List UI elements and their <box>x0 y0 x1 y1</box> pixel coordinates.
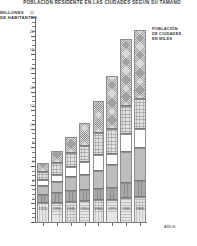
x-axis-tick-label: 1950 <box>80 206 89 211</box>
x-axis-tick <box>71 223 72 226</box>
bar-segment[interactable] <box>134 181 146 197</box>
y-axis-tick <box>32 115 35 116</box>
y-axis-tick <box>32 217 35 218</box>
x-axis-tick-label: 1930 <box>52 206 61 211</box>
y-axis-tick <box>31 54 35 55</box>
y-axis-tick-label: 4 <box>32 179 34 183</box>
bar-segment[interactable] <box>93 133 105 155</box>
bar-segment[interactable] <box>65 153 77 167</box>
bar-segment[interactable] <box>65 202 77 223</box>
bar-segment[interactable] <box>93 101 105 133</box>
bar-segment[interactable] <box>79 123 91 145</box>
x-axis-tick <box>140 223 141 226</box>
x-axis-tick-label: 1991 <box>136 206 145 211</box>
bar-segment[interactable] <box>106 129 118 154</box>
bar-segment[interactable] <box>37 163 49 171</box>
bar-segment[interactable] <box>51 182 63 193</box>
bar-segment[interactable] <box>106 76 118 129</box>
bar-segment[interactable] <box>120 134 132 152</box>
y-axis-tick <box>32 26 35 27</box>
bar-segment[interactable] <box>106 188 118 200</box>
y-axis-tick <box>32 64 35 65</box>
bar-segment[interactable] <box>93 200 105 223</box>
bar-segment[interactable] <box>37 172 49 180</box>
bar-group[interactable] <box>65 18 77 223</box>
bar-group[interactable] <box>93 18 105 223</box>
y-axis-tick <box>31 203 35 204</box>
y-axis-tick-label: 2 <box>32 198 34 202</box>
y-axis-tick <box>32 120 35 121</box>
bar-segment[interactable] <box>65 177 77 191</box>
y-axis-tick <box>32 208 35 209</box>
bar-segment[interactable] <box>106 154 118 165</box>
bar-segment[interactable] <box>65 167 77 177</box>
y-axis-tick <box>31 73 35 74</box>
x-axis-tick-label: 1970 <box>108 206 117 211</box>
bar-group[interactable] <box>134 18 146 223</box>
x-axis-tick <box>126 223 127 226</box>
y-axis-tick <box>32 133 35 134</box>
y-axis-tick <box>31 36 35 37</box>
y-axis-tick <box>32 59 35 60</box>
bar-segment[interactable] <box>51 151 63 163</box>
bar-segment[interactable] <box>134 129 146 148</box>
bar-segment[interactable] <box>134 99 146 129</box>
y-axis-tick <box>31 222 35 223</box>
y-axis-tick <box>32 101 35 102</box>
bar-segment[interactable] <box>51 193 63 202</box>
bar-segment[interactable] <box>37 186 49 195</box>
y-axis-tick-label: 14 <box>30 86 34 90</box>
y-axis-tick <box>31 185 35 186</box>
bar-segment[interactable] <box>106 165 118 187</box>
bar-segment[interactable] <box>37 180 49 186</box>
bar-group[interactable] <box>106 18 118 223</box>
bar-segment[interactable] <box>51 175 63 182</box>
y-axis-tick-label: 20 <box>30 30 34 34</box>
y-axis-tick <box>31 92 35 93</box>
bar-segment[interactable] <box>79 190 91 200</box>
y-axis-tick <box>32 82 35 83</box>
bar-segment[interactable] <box>134 30 146 99</box>
y-axis-tick-label: 18 <box>30 49 34 53</box>
bar-segment[interactable] <box>79 175 91 190</box>
y-axis-tick <box>32 22 35 23</box>
y-axis-tick <box>32 213 35 214</box>
x-axis-tick <box>43 223 44 226</box>
y-axis-tick-label: 22 <box>30 11 34 15</box>
bar-segment[interactable] <box>93 189 105 200</box>
bar-group[interactable] <box>120 18 132 223</box>
y-axis-tick <box>32 96 35 97</box>
y-axis-tick-label: 10 <box>30 123 34 127</box>
legend-title: POBLACIÓN DE CIUDADES EN MILES <box>152 26 181 42</box>
y-axis-tick <box>32 152 35 153</box>
bar-segment[interactable] <box>120 183 132 198</box>
y-axis-tick <box>32 175 35 176</box>
y-axis-tick <box>32 138 35 139</box>
bar-segment[interactable] <box>65 137 77 153</box>
bar-segment[interactable] <box>93 155 105 171</box>
bar-segment[interactable] <box>93 171 105 189</box>
bar-group[interactable] <box>79 18 91 223</box>
x-axis-tick-label: 1960 <box>94 206 103 211</box>
plot-area: 246810121416182022 <box>35 18 147 223</box>
bar-segment[interactable] <box>79 146 91 162</box>
y-axis-tick-label: 6 <box>32 160 34 164</box>
bar-segment[interactable] <box>120 152 132 183</box>
bar-segment[interactable] <box>51 163 63 174</box>
bar-group[interactable] <box>51 18 63 223</box>
bar-segment[interactable] <box>79 201 91 223</box>
bar-segment[interactable] <box>120 39 132 106</box>
bar-segment[interactable] <box>37 195 49 203</box>
bar-segment[interactable] <box>106 200 118 223</box>
bar-segment[interactable] <box>134 148 146 182</box>
y-axis-tick <box>32 78 35 79</box>
y-axis-tick <box>31 129 35 130</box>
bar-segment[interactable] <box>120 106 132 135</box>
y-axis-tick <box>31 17 35 18</box>
bar-group[interactable] <box>37 18 49 223</box>
bar-segment[interactable] <box>65 191 77 201</box>
y-axis-tick <box>32 189 35 190</box>
bar-segment[interactable] <box>79 162 91 176</box>
x-axis-tick <box>112 223 113 226</box>
y-axis-tick-label: 8 <box>32 142 34 146</box>
